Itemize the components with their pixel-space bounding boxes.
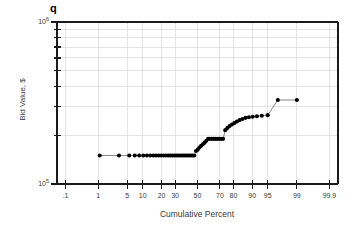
data-point-marker: [137, 153, 141, 157]
x-axis-tick-label: 5: [125, 192, 129, 199]
grid-layer: [57, 22, 338, 184]
data-point-marker: [98, 153, 102, 157]
data-point-marker: [266, 113, 270, 117]
x-axis-tick-label: 90: [248, 192, 256, 199]
x-axis-tick-label: 99: [293, 192, 301, 199]
x-axis-tick-label: 80: [230, 192, 238, 199]
x-axis-tick-label: 1: [96, 192, 100, 199]
x-axis-tick-label: 30: [171, 192, 179, 199]
data-point-marker: [260, 114, 264, 118]
x-axis-tick-label: 70: [216, 192, 224, 199]
x-axis-tick-label: 99.9: [323, 192, 337, 199]
x-axis-tick-label: 20: [158, 192, 166, 199]
chart-title: q: [50, 2, 57, 14]
data-point-marker: [141, 153, 145, 157]
x-axis-label: Cumulative Percent: [55, 209, 339, 219]
y-axis-label: Bid Value, $: [18, 45, 27, 155]
x-axis-tick-label: 95: [264, 192, 272, 199]
x-axis-tick-label: 10: [139, 192, 147, 199]
data-point-marker: [192, 153, 196, 157]
y-axis-tick-label: 105: [19, 178, 49, 187]
x-axis-tick-label: 50: [194, 192, 202, 199]
data-point-marker: [255, 114, 259, 118]
data-point-marker: [276, 98, 280, 102]
data-point-marker: [133, 153, 137, 157]
data-point-marker: [251, 115, 255, 119]
data-point-marker: [295, 98, 299, 102]
x-axis-tick-label: .1: [63, 192, 69, 199]
plot-canvas: [0, 0, 361, 230]
probability-plot-figure: q Bid Value, $ Cumulative Percent 106105…: [0, 0, 361, 230]
data-point-marker: [247, 115, 251, 119]
y-axis-tick-label: 106: [19, 16, 49, 25]
data-point-marker: [221, 137, 225, 141]
data-point-marker: [117, 153, 121, 157]
data-point-marker: [127, 153, 131, 157]
